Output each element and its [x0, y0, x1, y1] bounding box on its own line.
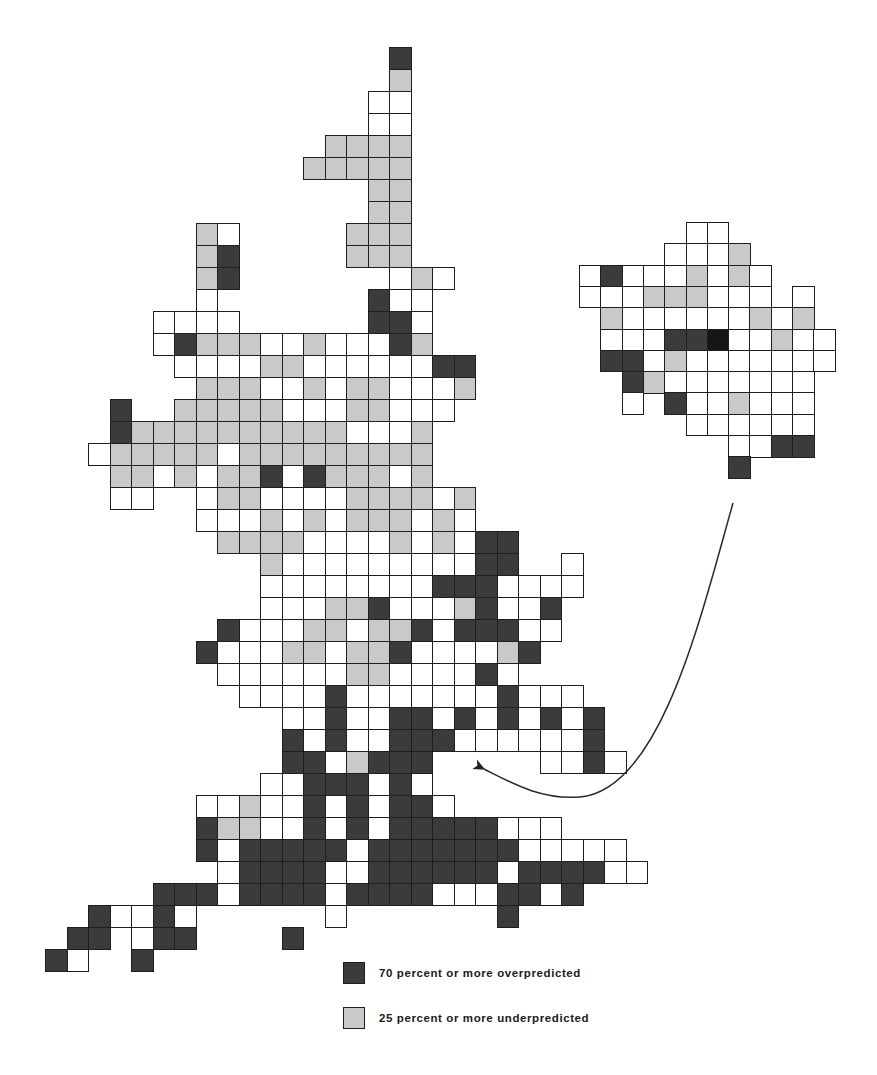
inset-cell — [622, 350, 645, 373]
inset-cell — [686, 243, 709, 266]
legend-swatch-grey — [343, 1007, 365, 1029]
inset-cell — [792, 392, 815, 415]
inset-cell — [643, 329, 666, 352]
inset-cell — [771, 371, 794, 394]
inset-cell — [728, 329, 751, 352]
inset-cell — [728, 371, 751, 394]
inset-cell — [771, 329, 794, 352]
inset-cell — [686, 307, 709, 330]
inset-cell — [643, 371, 666, 394]
inset-cell — [792, 307, 815, 330]
inset-cell — [622, 371, 645, 394]
inset-cell — [728, 435, 751, 458]
inset-cell — [771, 350, 794, 373]
inset-cell — [600, 350, 623, 373]
inset-cell — [749, 414, 772, 437]
inset-cell — [749, 265, 772, 288]
inset-cell — [771, 414, 794, 437]
legend-label-underpredicted: 25 percent or more underpredicted — [379, 1012, 589, 1024]
inset-cell — [622, 392, 645, 415]
inset-cell — [728, 456, 751, 479]
inset-cell — [686, 392, 709, 415]
inset-cell — [813, 350, 836, 373]
legend-item-overpredicted: 70 percent or more overpredicted — [343, 962, 581, 984]
inset-cell — [771, 435, 794, 458]
inset-cell — [664, 350, 687, 373]
inset-cell — [707, 243, 730, 266]
inset-cell — [707, 350, 730, 373]
inset-cell — [707, 414, 730, 437]
inset-cell — [664, 371, 687, 394]
inset-cell — [622, 307, 645, 330]
inset-cell — [728, 392, 751, 415]
inset-cell — [728, 350, 751, 373]
inset-cell — [643, 286, 666, 309]
inset-cell — [771, 392, 794, 415]
inset-cell — [643, 350, 666, 373]
legend-item-underpredicted: 25 percent or more underpredicted — [343, 1007, 589, 1029]
inset-cell — [707, 286, 730, 309]
inset-cell — [707, 329, 730, 352]
inset-cell — [707, 307, 730, 330]
inset-cell — [792, 350, 815, 373]
london-inset-map — [0, 0, 877, 1075]
grid-map-figure: 70 percent or more overpredicted 25 perc… — [0, 0, 877, 1075]
legend-label-overpredicted: 70 percent or more overpredicted — [379, 967, 581, 979]
inset-cell — [664, 243, 687, 266]
legend-swatch-dark — [343, 962, 365, 984]
inset-cell — [707, 371, 730, 394]
inset-cell — [728, 286, 751, 309]
inset-cell — [792, 329, 815, 352]
inset-cell — [728, 265, 751, 288]
inset-cell — [749, 329, 772, 352]
inset-cell — [664, 329, 687, 352]
inset-cell — [664, 392, 687, 415]
inset-cell — [707, 222, 730, 245]
inset-cell — [792, 286, 815, 309]
inset-cell — [749, 435, 772, 458]
inset-cell — [622, 265, 645, 288]
inset-cell — [728, 243, 751, 266]
inset-cell — [792, 435, 815, 458]
inset-cell — [664, 307, 687, 330]
inset-cell — [600, 265, 623, 288]
inset-cell — [686, 414, 709, 437]
inset-cell — [707, 392, 730, 415]
inset-cell — [749, 350, 772, 373]
inset-cell — [643, 307, 666, 330]
inset-cell — [579, 286, 602, 309]
inset-cell — [707, 265, 730, 288]
inset-cell — [600, 286, 623, 309]
inset-cell — [579, 265, 602, 288]
inset-cell — [686, 329, 709, 352]
inset-cell — [813, 329, 836, 352]
inset-cell — [771, 307, 794, 330]
inset-cell — [749, 371, 772, 394]
inset-cell — [749, 392, 772, 415]
inset-cell — [728, 307, 751, 330]
inset-cell — [686, 371, 709, 394]
inset-cell — [792, 371, 815, 394]
inset-cell — [643, 265, 666, 288]
inset-cell — [664, 286, 687, 309]
inset-cell — [792, 414, 815, 437]
inset-cell — [749, 307, 772, 330]
inset-cell — [686, 265, 709, 288]
inset-cell — [749, 286, 772, 309]
inset-cell — [728, 414, 751, 437]
inset-cell — [664, 265, 687, 288]
inset-cell — [686, 350, 709, 373]
inset-cell — [622, 286, 645, 309]
inset-cell — [600, 307, 623, 330]
inset-cell — [686, 222, 709, 245]
inset-cell — [600, 329, 623, 352]
inset-cell — [622, 329, 645, 352]
inset-cell — [686, 286, 709, 309]
